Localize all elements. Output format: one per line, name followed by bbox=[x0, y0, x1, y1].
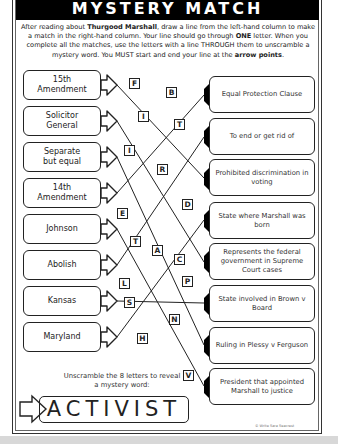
left-item-label: Abolish bbox=[47, 260, 76, 270]
letter-box: H bbox=[137, 333, 148, 344]
right-item-federal-government[interactable]: Represents the federal government in Sup… bbox=[209, 243, 315, 280]
right-item-equal-protection[interactable]: Equal Protection Clause bbox=[209, 76, 315, 113]
arrow-icon bbox=[101, 219, 117, 239]
arrow-icon bbox=[101, 111, 117, 131]
left-item-johnson[interactable]: Johnson bbox=[23, 214, 101, 244]
letter-box: I bbox=[124, 145, 135, 156]
right-item-label: Ruling in Plessy v Ferguson bbox=[216, 341, 308, 350]
right-item-to-end[interactable]: To end or get rid of bbox=[209, 118, 315, 155]
letter-box: R bbox=[157, 164, 168, 175]
letter-box: D bbox=[182, 199, 193, 210]
left-item-label: Separate bbox=[44, 147, 80, 156]
left-item-label: 14th bbox=[53, 183, 71, 192]
left-item-label: Solicitor bbox=[46, 111, 78, 120]
right-item-plessy-ruling[interactable]: Ruling in Plessy v Ferguson bbox=[209, 327, 315, 364]
right-item-label: State where Marshall was born bbox=[214, 212, 310, 230]
copyright: © Write Sara Seacrest bbox=[255, 424, 294, 428]
left-item-label: but equal bbox=[43, 157, 81, 166]
left-item-15th-amendment[interactable]: 15thAmendment bbox=[23, 70, 101, 100]
arrow-icon bbox=[101, 255, 117, 275]
letter-box: N bbox=[169, 314, 180, 325]
right-item-label: Equal Protection Clause bbox=[222, 90, 303, 99]
left-item-14th-amendment[interactable]: 14thAmendment bbox=[23, 178, 101, 208]
letter-box: L bbox=[119, 278, 130, 289]
letter-box: V bbox=[183, 370, 194, 381]
letter-box: F bbox=[129, 78, 140, 89]
right-item-label: Prohibited discrimination in voting bbox=[214, 169, 310, 187]
left-item-label: Maryland bbox=[43, 332, 80, 342]
left-item-label: Amendment bbox=[37, 85, 86, 94]
arrow-icon bbox=[101, 75, 117, 95]
letter-box: E bbox=[117, 208, 128, 219]
left-item-solicitor-general[interactable]: SolicitorGeneral bbox=[23, 106, 101, 136]
arrow-icon bbox=[101, 327, 117, 347]
right-item-president[interactable]: President that appointed Marshall to jus… bbox=[209, 368, 315, 405]
right-item-label: State involved in Brown v Board bbox=[214, 295, 310, 313]
letter-box: B bbox=[166, 87, 177, 98]
right-item-state-born[interactable]: State where Marshall was born bbox=[209, 202, 315, 239]
left-item-maryland[interactable]: Maryland bbox=[23, 322, 101, 352]
letter-box: C bbox=[174, 254, 185, 265]
letter-box: T bbox=[130, 236, 141, 247]
letter-box: A bbox=[152, 245, 163, 256]
left-item-label: Amendment bbox=[37, 193, 86, 202]
left-item-label: 15th bbox=[53, 75, 71, 84]
right-item-prohibited-discrimination[interactable]: Prohibited discrimination in voting bbox=[209, 159, 315, 196]
letter-box: S bbox=[124, 297, 135, 308]
right-item-label: President that appointed Marshall to jus… bbox=[214, 378, 310, 396]
left-item-label: Johnson bbox=[46, 224, 78, 234]
letter-box: T bbox=[174, 119, 185, 130]
arrow-icon bbox=[101, 147, 117, 167]
arrow-icon bbox=[101, 183, 117, 203]
unscramble-prompt: Unscramble the 8 letters to reveal a mys… bbox=[62, 372, 182, 390]
right-item-brown-v-board[interactable]: State involved in Brown v Board bbox=[209, 285, 315, 322]
answer-field[interactable]: ACTIVIST bbox=[39, 396, 189, 423]
right-item-label: Represents the federal government in Sup… bbox=[214, 248, 310, 275]
letter-box: P bbox=[182, 276, 193, 287]
arrow-icon bbox=[101, 291, 117, 311]
left-item-label: Kansas bbox=[48, 296, 76, 306]
bottom-strip bbox=[0, 436, 338, 444]
letter-box: I bbox=[138, 111, 149, 122]
left-item-abolish[interactable]: Abolish bbox=[23, 250, 101, 280]
right-item-label: To end or get rid of bbox=[230, 132, 294, 141]
left-item-separate-but-equal[interactable]: Separatebut equal bbox=[23, 142, 101, 172]
left-item-label: General bbox=[46, 121, 78, 130]
left-item-kansas[interactable]: Kansas bbox=[23, 286, 101, 316]
